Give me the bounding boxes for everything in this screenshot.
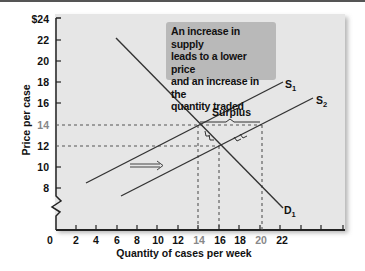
svg-text:$24: $24	[31, 13, 49, 25]
x-tick-labels: 0 2 4 6 8 10 12 14 16 18 20 22	[47, 234, 288, 246]
callout-line-1: An increase in supply	[171, 25, 271, 50]
svg-text:8: 8	[134, 234, 140, 246]
svg-text:0: 0	[47, 234, 53, 246]
svg-text:10: 10	[152, 234, 164, 246]
svg-text:12: 12	[37, 140, 49, 152]
y-tick-labels: $24 22 20 18 16 14 12 10 8	[31, 13, 49, 194]
svg-text:14: 14	[37, 119, 49, 131]
svg-text:8: 8	[43, 182, 49, 194]
svg-text:6: 6	[114, 234, 120, 246]
callout-line-4: quantity traded	[171, 100, 271, 113]
svg-text:2: 2	[73, 234, 79, 246]
svg-text:18: 18	[37, 76, 49, 88]
x-axis-title: Quantity of cases per week	[116, 247, 252, 259]
svg-text:10: 10	[37, 161, 49, 173]
svg-text:20: 20	[37, 55, 49, 67]
svg-text:16: 16	[37, 97, 49, 109]
svg-text:20: 20	[255, 234, 267, 246]
svg-text:4: 4	[93, 234, 99, 246]
svg-text:12: 12	[172, 234, 184, 246]
svg-text:22: 22	[276, 234, 288, 246]
callout-line-2: leads to a lower price	[171, 50, 271, 75]
callout-line-3: and an increase in the	[171, 75, 271, 100]
callout-box: An increase in supply leads to a lower p…	[166, 22, 276, 80]
svg-text:14: 14	[193, 234, 205, 246]
y-axis-title: Price per case	[20, 84, 32, 155]
svg-text:22: 22	[37, 34, 49, 46]
svg-text:16: 16	[214, 234, 226, 246]
svg-text:18: 18	[234, 234, 246, 246]
